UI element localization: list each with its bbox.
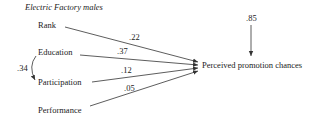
coef-correlation: .34 xyxy=(17,64,28,73)
correlation-curve xyxy=(32,56,36,80)
coef-performance: .05 xyxy=(124,84,135,93)
node-rank: Rank xyxy=(38,21,56,30)
node-education: Education xyxy=(38,48,72,57)
node-participation: Participation xyxy=(38,78,81,87)
arrow-performance xyxy=(90,71,198,106)
coef-rank: .22 xyxy=(129,33,140,42)
arrow-participation xyxy=(92,68,198,82)
coef-residual: .85 xyxy=(246,14,257,23)
node-performance: Performance xyxy=(38,106,81,115)
coef-education: .37 xyxy=(117,47,128,56)
coef-participation: .12 xyxy=(121,66,132,75)
diagram-title: Electric Factory males xyxy=(25,3,103,12)
node-outcome: Perceived promotion chances xyxy=(202,61,302,70)
arrow-education xyxy=(80,55,198,65)
path-diagram-arrows xyxy=(0,0,316,116)
